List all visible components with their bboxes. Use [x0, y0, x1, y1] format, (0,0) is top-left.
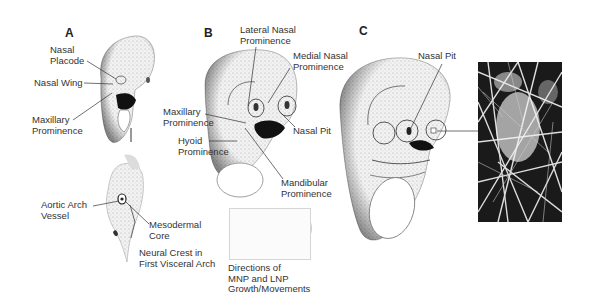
visceral-arch-section-drawing: [106, 154, 143, 262]
inset-caption: Directions of MNP and LNP Growth/Movemen…: [228, 263, 310, 295]
growth-direction-inset: [229, 208, 311, 260]
embryo-c-drawing: [340, 58, 450, 244]
label-neural-crest: Neural Crest in First Visceral Arch: [139, 248, 215, 269]
sem-micrograph: [478, 62, 562, 222]
embryo-a-drawing: [101, 36, 155, 143]
label-mandibular-prominence: Mandibular Prominence: [281, 178, 332, 199]
label-maxillary-prominence-b: Maxillary Prominence: [163, 107, 214, 128]
micrograph-texture: [478, 62, 562, 222]
label-aortic-arch-vessel: Aortic Arch Vessel: [41, 200, 87, 221]
label-nasal-wing: Nasal Wing: [34, 78, 83, 89]
panel-label-a: A: [65, 26, 74, 40]
panel-label-c: C: [359, 24, 368, 38]
panel-label-b: B: [204, 26, 213, 40]
label-hyoid-prominence: Hyoid Prominence: [178, 136, 229, 157]
embryo-b-drawing: [205, 50, 297, 197]
label-maxillary-prominence-a: Maxillary Prominence: [32, 115, 83, 136]
label-nasal-placode: Nasal Placode: [50, 45, 84, 66]
label-lateral-nasal-prominence: Lateral Nasal Prominence: [240, 25, 296, 46]
label-nasal-pit-b: Nasal Pit: [293, 126, 331, 137]
label-nasal-pit-c: Nasal Pit: [418, 51, 456, 62]
label-medial-nasal-prominence: Medial Nasal Prominence: [293, 51, 348, 72]
label-mesodermal-core: Mesodermal Core: [149, 220, 201, 241]
